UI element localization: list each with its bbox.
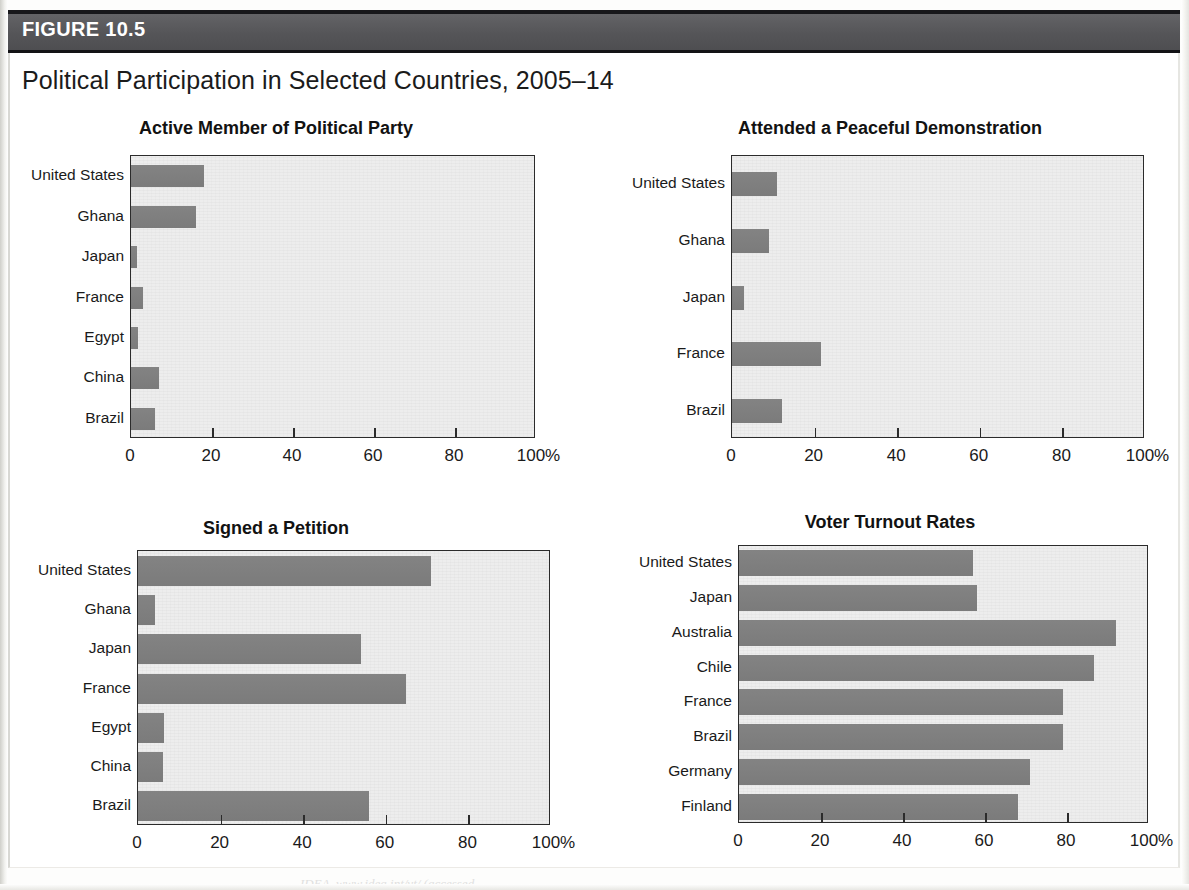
bar	[138, 595, 155, 625]
axis-tick	[468, 815, 470, 824]
plot-area	[731, 155, 1144, 438]
axis-tick-label: 40	[893, 831, 912, 851]
axis-tick	[821, 813, 823, 822]
bar	[131, 367, 159, 389]
scan-edge-bottom	[0, 884, 1189, 890]
chart-panel-3: Signed a Petition	[16, 518, 536, 519]
category-label: Japan	[690, 589, 732, 605]
axis-tick-label: 80	[1052, 446, 1071, 466]
category-label: United States	[632, 175, 725, 191]
axis-tick-label: 0	[132, 833, 141, 853]
bar	[138, 713, 164, 743]
axis-tick-label: 0	[733, 831, 742, 851]
axis-tick	[221, 815, 223, 824]
bar	[131, 327, 138, 349]
bar	[732, 399, 782, 423]
axis-tick-label: 60	[364, 446, 383, 466]
axis-tick-label: 60	[975, 831, 994, 851]
bar	[732, 342, 821, 366]
bar	[732, 229, 769, 253]
category-label: United States	[31, 167, 124, 183]
chart-title: Signed a Petition	[16, 518, 536, 539]
axis-tick	[897, 428, 899, 437]
header-bottom-rule	[8, 50, 1180, 53]
bar	[138, 791, 369, 821]
axis-tick-label: 40	[293, 833, 312, 853]
axis-tick	[985, 813, 987, 822]
axis-tick-label: 100%	[1126, 446, 1169, 466]
axis-tick-label: 40	[283, 446, 302, 466]
category-label: France	[684, 693, 732, 709]
chart-panel-2: Attended a Peaceful Demonstration	[610, 118, 1170, 119]
category-label: Brazil	[693, 728, 732, 744]
scan-edge-left	[0, 0, 8, 890]
chart-title: Active Member of Political Party	[16, 118, 536, 139]
chart-panel-4: Voter Turnout Rates	[610, 512, 1170, 513]
bar	[131, 408, 155, 430]
axis-tick	[903, 813, 905, 822]
axis-tick	[815, 428, 817, 437]
axis-tick	[303, 815, 305, 824]
category-label: Japan	[82, 248, 124, 264]
axis-tick	[980, 428, 982, 437]
axis-tick-label: 20	[811, 831, 830, 851]
category-label: China	[91, 758, 132, 774]
bar	[138, 752, 163, 782]
category-label: Egypt	[91, 719, 131, 735]
category-label: Egypt	[84, 329, 124, 345]
axis-tick-label: 80	[458, 833, 477, 853]
bar	[739, 759, 1030, 785]
category-label: Brazil	[85, 410, 124, 426]
category-label: Germany	[668, 763, 732, 779]
axis-tick-label: 0	[125, 446, 134, 466]
category-label: United States	[38, 562, 131, 578]
bar	[131, 287, 143, 309]
chart-title: Attended a Peaceful Demonstration	[610, 118, 1170, 139]
axis-tick	[386, 815, 388, 824]
scan-edge-right	[1181, 0, 1189, 890]
bar	[739, 550, 973, 576]
category-label: Japan	[683, 289, 725, 305]
category-label: Finland	[681, 798, 732, 814]
figure-title: Political Participation in Selected Coun…	[22, 66, 614, 95]
figure-number-label: FIGURE 10.5	[22, 18, 145, 41]
category-label: Chile	[697, 659, 732, 675]
axis-tick-label: 60	[375, 833, 394, 853]
category-label: United States	[639, 554, 732, 570]
figure-header-band	[8, 14, 1180, 50]
bar	[739, 724, 1063, 750]
axis-tick-label: 20	[804, 446, 823, 466]
axis-tick-label: 80	[445, 446, 464, 466]
chart-panel-1: Active Member of Political Party	[16, 118, 536, 119]
chart-title: Voter Turnout Rates	[610, 512, 1170, 533]
bar	[739, 585, 977, 611]
axis-tick	[212, 428, 214, 437]
plot-area	[137, 550, 550, 825]
bar	[739, 794, 1018, 820]
axis-tick	[455, 428, 457, 437]
axis-tick-label: 100%	[532, 833, 575, 853]
category-label: Brazil	[686, 402, 725, 418]
bar	[138, 674, 406, 704]
bar	[131, 165, 204, 187]
figure-page: FIGURE 10.5 Political Participation in S…	[0, 0, 1189, 890]
category-label: China	[84, 369, 125, 385]
category-label: Ghana	[84, 601, 131, 617]
axis-tick-label: 100%	[517, 446, 560, 466]
axis-tick-label: 100%	[1130, 831, 1173, 851]
axis-tick-label: 60	[969, 446, 988, 466]
category-label: Ghana	[77, 208, 124, 224]
category-label: France	[76, 289, 124, 305]
bar	[739, 655, 1094, 681]
bar	[732, 172, 777, 196]
axis-tick-label: 0	[726, 446, 735, 466]
category-label: Australia	[672, 624, 732, 640]
bar	[138, 634, 361, 664]
category-label: Japan	[89, 640, 131, 656]
axis-tick	[1067, 813, 1069, 822]
bar	[732, 286, 744, 310]
category-label: France	[677, 345, 725, 361]
plot-area	[738, 545, 1148, 823]
bar	[131, 246, 137, 268]
axis-tick-label: 80	[1057, 831, 1076, 851]
